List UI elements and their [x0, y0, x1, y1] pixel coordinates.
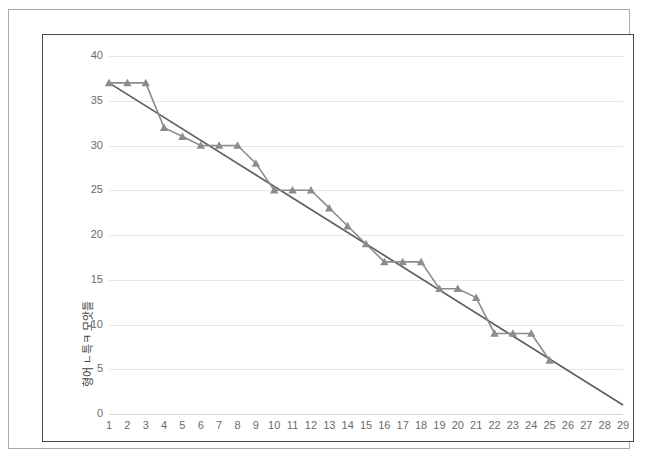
data-point-marker [160, 123, 168, 131]
data-point-marker [178, 132, 186, 140]
plot-area: 형어 ㄴ특ㅋ 모앗틀 0510152025303540 123456789101… [43, 35, 635, 443]
data-point-marker [472, 293, 480, 301]
document-frame: 형어 ㄴ특ㅋ 모앗틀 0510152025303540 123456789101… [8, 9, 630, 449]
chart-container[interactable]: 형어 ㄴ특ㅋ 모앗틀 0510152025303540 123456789101… [42, 34, 634, 442]
page-root: 형어 ㄴ특ㅋ 모앗틀 0510152025303540 123456789101… [0, 0, 645, 465]
chart-svg [43, 35, 635, 443]
